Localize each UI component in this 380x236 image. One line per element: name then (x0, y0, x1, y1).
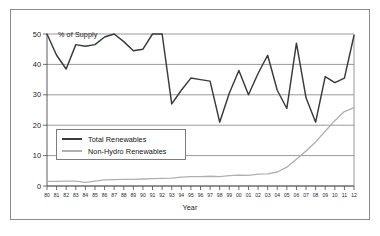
x-axis-ticks (43, 34, 354, 190)
data-series (47, 34, 354, 182)
line-chart-canvas (11, 10, 371, 221)
y-axis-title: % of Supply (58, 30, 97, 39)
figure-frame: % of Supply 01020304050 8081828384858687… (10, 9, 370, 220)
y-tick-label: 40 (13, 60, 41, 69)
legend-label-total-renewables: Total Renewables (88, 135, 146, 144)
series-line (47, 34, 354, 122)
line-swatch-light-icon (62, 150, 82, 152)
line-swatch-dark-icon (62, 138, 82, 140)
chart-page: % of Supply 01020304050 8081828384858687… (0, 0, 380, 236)
chart-legend: Total Renewables Non-Hydro Renewables (56, 129, 186, 160)
y-tick-label: 10 (13, 151, 41, 160)
y-tick-label: 30 (13, 90, 41, 99)
y-tick-label: 20 (13, 121, 41, 130)
gridlines (47, 34, 354, 186)
legend-label-non-hydro-renewables: Non-Hydro Renewables (88, 147, 166, 156)
legend-item-non-hydro-renewables: Non-Hydro Renewables (62, 145, 180, 157)
y-tick-label: 50 (13, 30, 41, 39)
axes (47, 34, 354, 186)
x-tick-label: 12 (348, 192, 360, 198)
x-axis-title: Year (0, 203, 380, 212)
legend-item-total-renewables: Total Renewables (62, 133, 180, 145)
y-tick-label: 0 (13, 182, 41, 191)
